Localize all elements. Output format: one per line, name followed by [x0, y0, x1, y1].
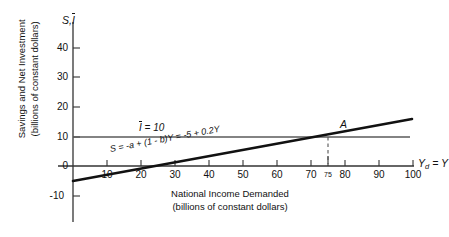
y-axis-title-line2: (billions of constant dollars) — [29, 21, 40, 136]
investment-i-bar: I — [139, 122, 142, 134]
x-tick-label-20: 20 — [128, 169, 154, 181]
y-axis-symbol-s: S, — [62, 14, 72, 26]
savings-investment-chart: 40 30 20 10 0 -10 10 20 30 40 50 60 70 7… — [0, 0, 449, 237]
y-tick-label-20: 20 — [42, 101, 68, 113]
y-tick-label-30: 30 — [42, 71, 68, 83]
investment-value: = 10 — [142, 122, 165, 133]
x-tick-label-10: 10 — [94, 169, 120, 181]
y-axis-title-line1: Savings and Net Investment — [16, 19, 27, 138]
y-tick-label-10: 10 — [42, 131, 68, 143]
x-axis-title-line1: National Income Demanded — [171, 188, 289, 199]
y-tick-label-0: 0 — [42, 160, 68, 172]
x-axis-title: National Income Demanded (billions of co… — [130, 188, 330, 214]
x-axis-symbol-equals-y: = Y — [429, 157, 448, 169]
y-tick-label-40: 40 — [42, 42, 68, 54]
x-tick-label-60: 60 — [264, 169, 290, 181]
x-tick-label-40: 40 — [196, 169, 222, 181]
x-axis-symbol: Yd = Y — [418, 157, 448, 172]
investment-level-label: I = 10 — [139, 122, 164, 134]
x-tick-label-50: 50 — [230, 169, 256, 181]
point-a-label: A — [340, 118, 347, 130]
x-tick-label-30: 30 — [162, 169, 188, 181]
y-axis-symbol-i-bar: I — [72, 14, 75, 26]
x-tick-label-90: 90 — [366, 169, 392, 181]
x-axis-title-line2: (billions of constant dollars) — [172, 201, 287, 212]
y-axis-symbol: S,I — [62, 14, 75, 26]
y-tick-label-minus-10: -10 — [38, 190, 64, 202]
x-axis-symbol-y: Y — [418, 157, 425, 169]
y-axis-ticks — [73, 48, 80, 196]
x-tick-label-80: 80 — [332, 169, 358, 181]
y-axis-title: Savings and Net Investment (billions of … — [16, 0, 42, 174]
